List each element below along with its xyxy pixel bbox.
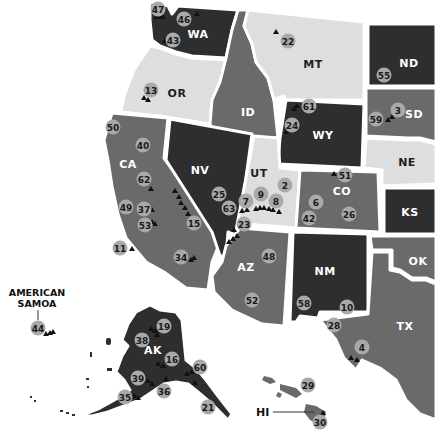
marker-number: 37 [138,205,151,215]
site-marker-63[interactable]: 63 [222,201,237,216]
site-marker-39[interactable]: 39 [131,371,146,386]
site-marker-60[interactable]: 60 [193,360,208,375]
state-label-wy: WY [312,129,334,142]
marker-number: 10 [341,303,354,313]
marker-number: 52 [246,296,259,306]
site-marker-58[interactable]: 58 [297,296,312,311]
site-marker-22[interactable]: 22 [281,34,296,49]
marker-number: 8 [273,197,279,207]
site-marker-62[interactable]: 62 [137,172,152,187]
state-label-ut: UT [250,167,267,180]
state-label-co: CO [333,185,351,198]
site-marker-8[interactable]: 8 [269,194,284,209]
marker-number: 49 [120,203,133,213]
marker-number: 19 [158,322,171,332]
state-label-nm: NM [314,265,335,278]
marker-number: 2 [282,181,288,191]
marker-number: 40 [137,141,150,151]
marker-number: 35 [119,393,132,403]
site-marker-50[interactable]: 50 [106,120,121,135]
marker-number: 60 [194,363,207,373]
site-marker-16[interactable]: 16 [165,352,180,367]
marker-number: 3 [395,106,401,116]
state-label-ne: NE [398,156,416,169]
marker-number: 28 [328,321,341,331]
site-marker-36[interactable]: 36 [157,384,172,399]
marker-number: 29 [302,381,315,391]
site-marker-42[interactable]: 42 [302,211,317,226]
site-marker-37[interactable]: 37 [137,202,152,217]
state-label-tx: TX [397,320,414,333]
marker-number: 44 [32,324,45,334]
site-marker-10[interactable]: 10 [340,300,355,315]
site-marker-6[interactable]: 6 [309,195,324,210]
site-marker-34[interactable]: 34 [174,250,189,265]
site-marker-23[interactable]: 23 [237,217,252,232]
site-marker-7[interactable]: 7 [239,194,254,209]
marker-number: 16 [166,355,179,365]
marker-number: 36 [158,387,171,397]
site-marker-29[interactable]: 29 [301,378,316,393]
site-marker-4[interactable]: 4 [355,340,370,355]
site-marker-51[interactable]: 51 [338,168,353,183]
site-marker-30[interactable]: 30 [313,415,328,430]
site-marker-53[interactable]: 53 [138,218,153,233]
marker-number: 59 [370,115,383,125]
marker-number: 9 [258,190,264,200]
marker-number: 4 [359,343,365,353]
marker-number: 48 [263,252,276,262]
site-marker-40[interactable]: 40 [136,138,151,153]
site-marker-2[interactable]: 2 [278,178,293,193]
site-marker-47[interactable]: 47 [151,2,166,17]
american-samoa-label-line1: AMERICAN [9,287,65,298]
site-marker-3[interactable]: 3 [391,103,406,118]
state-label-nv: NV [191,164,210,177]
marker-number: 53 [139,221,152,231]
marker-number: 61 [303,102,316,112]
site-marker-28[interactable]: 28 [327,318,342,333]
marker-number: 51 [339,171,352,181]
site-marker-55[interactable]: 55 [377,68,392,83]
marker-number: 25 [213,190,226,200]
marker-number: 63 [223,204,236,214]
marker-number: 11 [114,244,127,254]
site-marker-35[interactable]: 35 [118,390,133,405]
site-marker-44[interactable]: 44 [31,321,46,336]
marker-number: 24 [286,121,299,131]
site-marker-19[interactable]: 19 [157,319,172,334]
marker-number: 42 [303,214,316,224]
site-marker-26[interactable]: 26 [342,207,357,222]
site-marker-11[interactable]: 11 [113,241,128,256]
site-marker-43[interactable]: 43 [166,33,181,48]
marker-number: 30 [314,418,327,428]
site-marker-13[interactable]: 13 [144,83,159,98]
marker-number: 39 [132,374,145,384]
state-label-mt: MT [303,58,322,71]
site-marker-15[interactable]: 15 [187,216,202,231]
site-marker-61[interactable]: 61 [302,99,317,114]
state-label-az: AZ [237,261,255,274]
american-samoa-label-line2: SAMOA [18,298,57,309]
marker-number: 58 [298,299,311,309]
site-marker-21[interactable]: 21 [201,400,216,415]
hawaii-label: HI [256,406,269,419]
site-marker-59[interactable]: 59 [369,112,384,127]
state-label-ak: AK [144,344,162,357]
site-marker-48[interactable]: 48 [262,249,277,264]
marker-number: 7 [243,197,249,207]
marker-number: 15 [188,219,201,229]
site-marker-46[interactable]: 46 [177,12,192,27]
site-marker-52[interactable]: 52 [245,293,260,308]
marker-number: 46 [178,15,191,25]
marker-number: 26 [343,210,356,220]
site-marker-38[interactable]: 38 [135,333,150,348]
marker-number: 43 [167,36,180,46]
state-label-sd: SD [405,108,423,121]
site-marker-9[interactable]: 9 [254,187,269,202]
state-label-ca: CA [119,158,137,171]
aleutian-islands [30,338,112,416]
state-label-nd: ND [399,57,418,70]
site-marker-49[interactable]: 49 [119,200,134,215]
site-marker-24[interactable]: 24 [285,118,300,133]
site-marker-25[interactable]: 25 [212,187,227,202]
